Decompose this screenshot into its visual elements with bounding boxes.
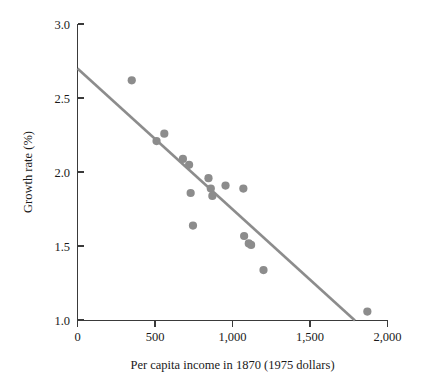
data-point xyxy=(207,184,215,192)
data-point xyxy=(185,161,193,169)
y-tick-label-1-5: 1.5 xyxy=(54,240,70,254)
axes-group xyxy=(78,24,388,321)
scatter-markers-group xyxy=(128,76,372,315)
x-tick-label-1500: 1,500 xyxy=(296,330,324,344)
x-tick-label-0: 0 xyxy=(74,330,80,344)
data-point xyxy=(221,181,229,189)
x-tick-label-1000: 1,000 xyxy=(218,330,246,344)
data-point xyxy=(204,174,212,182)
y-axis-title: Growth rate (%) xyxy=(21,131,35,213)
data-point xyxy=(179,155,187,163)
data-point xyxy=(363,308,371,316)
y-tick-label-1-0: 1.0 xyxy=(54,314,70,328)
y-tick-label-3-0: 3.0 xyxy=(54,18,70,32)
data-point xyxy=(187,189,195,197)
x-axis-ticks: 0 500 1,000 1,500 2,000 xyxy=(74,321,401,345)
y-tick-label-2-5: 2.5 xyxy=(54,92,70,106)
data-point xyxy=(128,76,136,84)
data-point xyxy=(208,192,216,200)
scatter-plot-figure: 3.0 2.5 2.0 1.5 1.0 0 500 1,000 1,500 2,… xyxy=(0,0,424,385)
data-point xyxy=(239,184,247,192)
data-point xyxy=(247,241,255,249)
x-tick-label-2000: 2,000 xyxy=(373,330,401,344)
x-tick-label-500: 500 xyxy=(146,330,165,344)
x-axis-title: Per capita income in 1870 (1975 dollars) xyxy=(130,358,334,372)
y-tick-label-2-0: 2.0 xyxy=(54,166,70,180)
data-point xyxy=(259,266,267,274)
y-axis-ticks: 3.0 2.5 2.0 1.5 1.0 xyxy=(54,18,83,328)
regression-line xyxy=(78,68,355,320)
data-point xyxy=(189,222,197,230)
data-point xyxy=(152,137,160,145)
chart-canvas: 3.0 2.5 2.0 1.5 1.0 0 500 1,000 1,500 2,… xyxy=(0,0,424,385)
data-point xyxy=(240,232,248,240)
data-point xyxy=(160,130,168,138)
